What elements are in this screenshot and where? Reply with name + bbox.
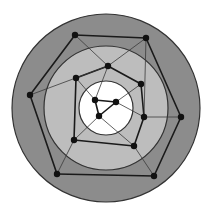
node-o1 <box>72 32 78 38</box>
node-i2 <box>113 99 119 105</box>
ring-layers <box>12 14 200 202</box>
node-m6 <box>73 75 79 81</box>
node-m3 <box>141 114 147 120</box>
concentric-graph-diagram <box>0 0 210 215</box>
node-i1 <box>92 97 98 103</box>
node-m1 <box>105 63 111 69</box>
node-m5 <box>71 137 77 143</box>
node-o2 <box>143 35 149 41</box>
node-m4 <box>131 143 137 149</box>
node-o5 <box>54 171 60 177</box>
node-o4 <box>151 173 157 179</box>
node-o6 <box>27 92 33 98</box>
node-i3 <box>96 113 102 119</box>
node-o3 <box>178 114 184 120</box>
node-m2 <box>138 81 144 87</box>
